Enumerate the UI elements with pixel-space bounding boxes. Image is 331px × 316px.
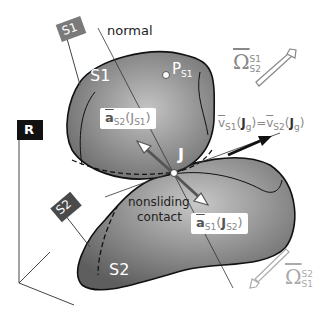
omega-bottom-label: ΩS2S1 (285, 265, 313, 289)
nonsliding-label: nonsliding (128, 196, 190, 208)
velocity-equation: vS1(Jg)=vS2(Jg) (218, 117, 304, 132)
body-s1-label: S1 (90, 68, 110, 84)
contact-point-label: J (178, 147, 184, 163)
point-p-label: PS1 (172, 62, 193, 79)
velocity-arrow (228, 136, 272, 155)
omega-top-arrow (256, 49, 296, 86)
contact-label: contact (137, 211, 182, 223)
body-s2-label: S2 (109, 262, 129, 278)
omega-top-label: ΩS1S2 (233, 50, 261, 74)
accel-s1-box: aS1(JS2) (191, 213, 248, 234)
frame-r-label: R (24, 123, 34, 136)
contact-point-j (171, 170, 178, 177)
point-p-s1 (163, 72, 170, 79)
flag-s1-pole (66, 35, 80, 85)
accel-s2-box: aS2(JS1) (100, 108, 156, 129)
diagram-canvas (0, 0, 331, 316)
flag-s2-pole (65, 215, 90, 247)
normal-label: normal (107, 24, 153, 37)
